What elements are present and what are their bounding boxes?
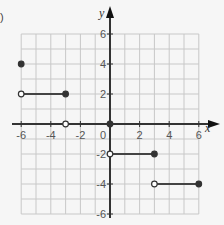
panel-label: ) xyxy=(0,11,4,23)
x-tick-label: 4 xyxy=(166,129,172,141)
x-tick-label: 6 xyxy=(196,129,202,141)
axes xyxy=(12,6,220,218)
y-tick-label: -6 xyxy=(96,208,106,220)
closed-point xyxy=(63,91,69,97)
open-point xyxy=(63,121,69,127)
y-tick-label: 4 xyxy=(100,58,106,70)
x-axis-label: x xyxy=(204,121,211,135)
y-tick-label: 6 xyxy=(100,28,106,40)
y-axis-label: y xyxy=(98,6,105,20)
y-axis-arrow-icon xyxy=(106,6,114,18)
x-tick-label: 2 xyxy=(137,129,143,141)
closed-point xyxy=(107,121,113,127)
closed-point xyxy=(152,151,158,157)
x-tick-label: -4 xyxy=(46,129,56,141)
x-tick-label: 0 xyxy=(100,129,106,141)
open-point xyxy=(107,151,113,157)
open-point xyxy=(152,181,158,187)
open-point xyxy=(18,91,24,97)
step-function-graph: ) -6-4-20246642-2-4-6 x y xyxy=(0,0,224,225)
x-tick-label: -2 xyxy=(76,129,86,141)
closed-point xyxy=(196,181,202,187)
closed-point xyxy=(18,61,24,67)
x-tick-label: -6 xyxy=(16,129,26,141)
y-tick-label: 2 xyxy=(100,88,106,100)
y-tick-label: -4 xyxy=(96,178,106,190)
y-tick-label: -2 xyxy=(96,148,106,160)
